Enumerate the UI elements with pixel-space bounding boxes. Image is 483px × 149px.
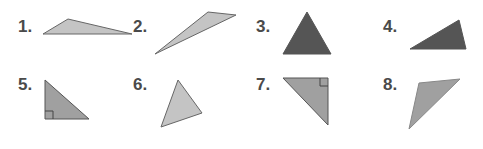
- triangle-3: [283, 12, 331, 54]
- triangles-figure: [0, 0, 483, 149]
- triangle-1: [43, 19, 132, 34]
- triangle-8: [409, 79, 460, 129]
- triangle-7: [283, 78, 328, 125]
- triangle-6: [161, 80, 202, 127]
- triangle-2: [155, 12, 236, 54]
- triangle-4: [410, 20, 466, 49]
- triangle-5: [45, 80, 89, 119]
